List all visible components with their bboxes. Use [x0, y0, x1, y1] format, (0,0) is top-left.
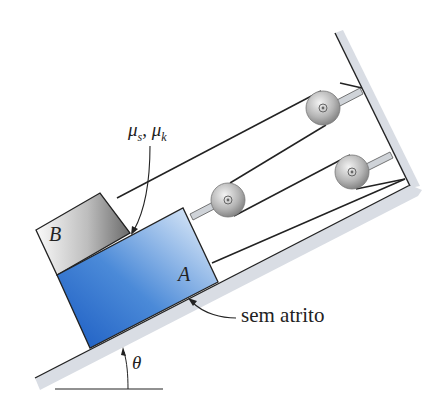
block-b-label: B — [49, 223, 61, 246]
friction-coefficients-label: μs, μk — [128, 119, 167, 145]
pulley-lower-left — [211, 183, 245, 217]
block-a-label: A — [178, 263, 190, 286]
frictionless-label: sem atrito — [241, 303, 324, 328]
angle-label: θ — [132, 352, 141, 374]
pulley-upper-right — [306, 91, 340, 125]
pulley-lower-right — [335, 155, 369, 189]
diagram-canvas — [0, 0, 445, 415]
friction-arrow — [131, 146, 150, 235]
